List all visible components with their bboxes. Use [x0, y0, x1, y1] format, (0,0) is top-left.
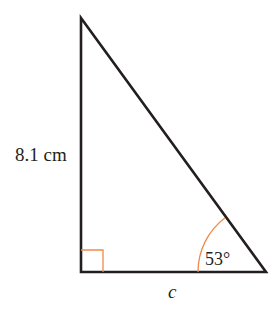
angle-label: 53° — [205, 249, 230, 269]
triangle-diagram: 8.1 cm 53° c — [0, 0, 270, 313]
side-vertical-label: 8.1 cm — [15, 144, 67, 165]
right-angle-marker — [81, 250, 103, 272]
triangle — [81, 18, 266, 272]
side-base-label: c — [168, 281, 177, 302]
